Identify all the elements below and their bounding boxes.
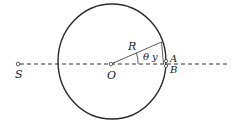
label-o: O [107,69,116,82]
label-r: R [127,40,136,53]
label-y: y [151,51,158,62]
point-o-marker [109,62,113,66]
label-s: S [15,68,23,81]
label-b: B [169,64,177,75]
point-b-marker [164,64,167,67]
label-a: A [169,53,177,64]
height-segment [162,42,164,64]
sphere-circle [58,4,166,119]
angle-arc [137,53,139,64]
point-s-marker [16,62,20,66]
label-theta: θ [143,51,149,62]
diagram-canvas: S O R θ y A B [0,0,237,123]
point-a-marker [164,59,167,62]
